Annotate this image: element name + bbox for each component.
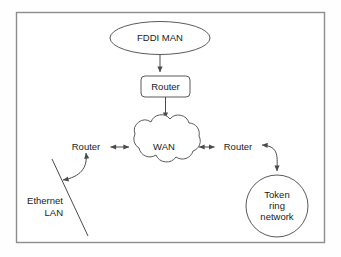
token-ring-label-line1: Token [264,189,289,200]
router-left-label: Router [72,141,101,152]
token-ring-label-line3: network [260,211,294,222]
router-right-label: Router [224,141,253,152]
ethernet-lan-label-line2: LAN [45,207,64,218]
fddi-man-label: FDDI MAN [137,32,183,43]
token-ring-label-line2: ring [269,200,285,211]
wan-label: WAN [153,141,175,152]
router-top-label: Router [151,81,180,92]
diagram-canvas: FDDI MAN Router WAN Router Router Ethern… [0,0,341,257]
network-diagram: FDDI MAN Router WAN Router Router Ethern… [0,0,341,257]
ethernet-lan-label-line1: Ethernet [27,195,63,206]
